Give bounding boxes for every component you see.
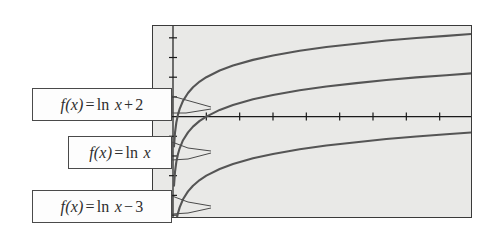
plot-panel (152, 25, 472, 218)
figure-root: f(x)=ln x+2 f(x)=ln x f(x)=ln x−3 (0, 0, 495, 234)
callout-label-text-0: f(x)=ln x+2 (60, 96, 143, 114)
callout-label-ln-x-minus-3: f(x)=ln x−3 (32, 190, 172, 223)
equals-sign-2: = (83, 198, 96, 215)
constant-2: 3 (135, 198, 143, 215)
constant-0: 2 (135, 96, 143, 113)
equals-sign-0: = (83, 96, 96, 113)
fn-arg-1: (x) (94, 144, 112, 161)
callout-label-ln-x: f(x)=ln x (68, 136, 172, 169)
callout-label-text-1: f(x)=ln x (89, 144, 151, 162)
callout-label-ln-x-plus-2: f(x)=ln x+2 (32, 88, 172, 121)
operator-2: − (122, 198, 135, 215)
ln-symbol-0: ln (97, 96, 111, 113)
operator-0: + (122, 96, 135, 113)
ln-symbol-2: ln (97, 198, 111, 215)
logarithm-graph (153, 26, 472, 218)
variable-1: x (144, 144, 151, 161)
fn-arg-0: (x) (65, 96, 83, 113)
fn-arg-2: (x) (65, 198, 83, 215)
curve-0 (174, 34, 472, 146)
variable-0: x (115, 96, 122, 113)
equals-sign-1: = (112, 144, 125, 161)
variable-2: x (115, 198, 122, 215)
curve-2 (177, 132, 472, 217)
ln-symbol-1: ln (125, 144, 139, 161)
callout-label-text-2: f(x)=ln x−3 (60, 198, 143, 216)
